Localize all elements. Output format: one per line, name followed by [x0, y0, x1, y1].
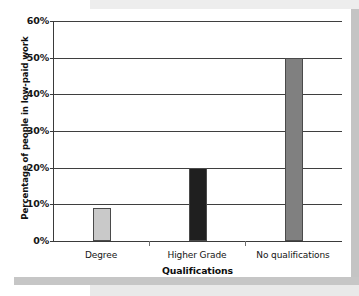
x-category-label: Higher Grade [149, 250, 245, 260]
y-tick-label: 30% [3, 125, 49, 136]
y-tick-mark [50, 21, 54, 22]
y-tick-mark [50, 131, 54, 132]
bar-chart: Percentage of people in low-paid work 0%… [0, 0, 359, 296]
bar [93, 208, 111, 241]
bar [285, 58, 303, 241]
y-tick-label: 10% [3, 198, 49, 209]
x-axis-line [53, 241, 342, 242]
y-tick-label: 60% [3, 15, 49, 26]
plot-area [53, 21, 341, 241]
x-tick-mark [245, 241, 246, 246]
y-tick-label: 0% [3, 235, 49, 246]
gridline [54, 21, 342, 22]
x-axis-title: Qualifications [53, 265, 342, 276]
y-tick-mark [50, 58, 54, 59]
y-tick-mark [50, 168, 54, 169]
x-tick-mark [149, 241, 150, 246]
y-tick-label: 20% [3, 162, 49, 173]
y-tick-label: 40% [3, 88, 49, 99]
y-tick-label: 50% [3, 52, 49, 63]
bar [189, 168, 207, 241]
y-tick-mark [50, 94, 54, 95]
x-category-label: No qualifications [245, 250, 341, 260]
x-category-label: Degree [53, 250, 149, 260]
y-tick-mark [50, 204, 54, 205]
